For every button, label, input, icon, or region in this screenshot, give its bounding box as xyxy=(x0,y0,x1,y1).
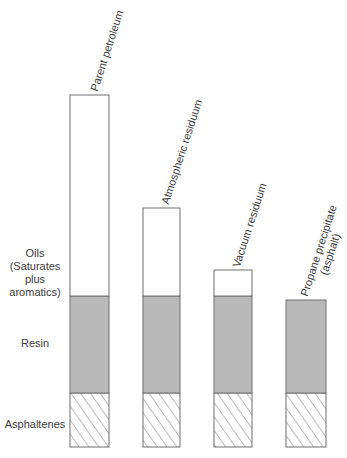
bar-segment-resin xyxy=(143,296,180,393)
oils-label-line: aromatics) xyxy=(2,286,68,299)
bar-segment-asphaltenes xyxy=(143,393,180,447)
bar-segment-asphaltenes xyxy=(214,393,252,447)
oils-label-line: plus xyxy=(2,273,68,286)
bar-segment-asphaltenes xyxy=(70,393,109,447)
bar-segment-asphaltenes xyxy=(286,393,326,447)
asphaltenes-label: Asphaltenes xyxy=(2,418,68,431)
bar-segment-oils xyxy=(143,208,180,296)
bar-segment-oils xyxy=(214,270,252,296)
oils-label-line: (Saturates xyxy=(2,260,68,273)
bar-segment-resin xyxy=(286,300,326,393)
bar-segment-oils xyxy=(70,95,109,296)
oils-label: Oils (Saturates plus aromatics) xyxy=(2,247,68,299)
oils-label-line: Oils xyxy=(2,247,68,260)
resin-label: Resin xyxy=(10,337,60,350)
bar-segment-resin xyxy=(70,296,109,393)
bar-segment-resin xyxy=(214,296,252,393)
